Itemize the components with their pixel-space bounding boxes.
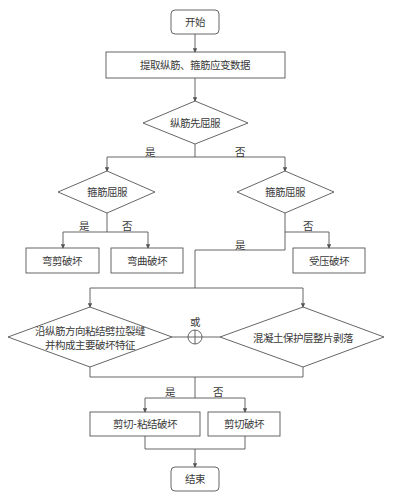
end-label: 结束 [185, 473, 205, 486]
shear-bond-label: 剪切-粘结破坏 [113, 418, 177, 431]
or-label: 或 [190, 316, 200, 329]
edge-label-stirrup-left-no: 否 [122, 218, 132, 233]
edge-label-stirrup-left-yes: 是 [79, 218, 89, 233]
edge-label-long-yes: 是 [145, 144, 155, 159]
longitudinal-yield-label: 纵筋先屈服 [170, 117, 220, 130]
flowchart-diagram [0, 0, 393, 504]
bond-crack-label-line1: 沿纵筋方向粘结劈拉裂缝 [35, 325, 145, 338]
start-label: 开始 [185, 16, 205, 29]
flexural-shear-label: 弯剪破坏 [42, 255, 82, 268]
shear-label: 剪切破坏 [224, 418, 264, 431]
edge-label-long-no: 否 [235, 144, 245, 159]
bond-crack-label-line2: 并构成主要破坏特征 [45, 339, 135, 352]
edge-label-bond-no: 否 [213, 384, 223, 399]
flexural-label: 弯曲破坏 [127, 255, 167, 268]
compression-label: 受压破坏 [309, 255, 349, 268]
extract-label: 提取纵筋、箍筋应变数据 [140, 59, 250, 72]
edge-label-bond-yes: 是 [165, 384, 175, 399]
edge-label-stirrup-right-no: 否 [303, 218, 313, 233]
stirrup-yield-left-label: 箍筋屈服 [87, 186, 127, 199]
edge-label-stirrup-right-yes: 是 [235, 237, 245, 252]
stirrup-yield-right-label: 箍筋屈服 [265, 186, 305, 199]
cover-spall-label: 混凝土保护层整片剥落 [253, 332, 353, 345]
